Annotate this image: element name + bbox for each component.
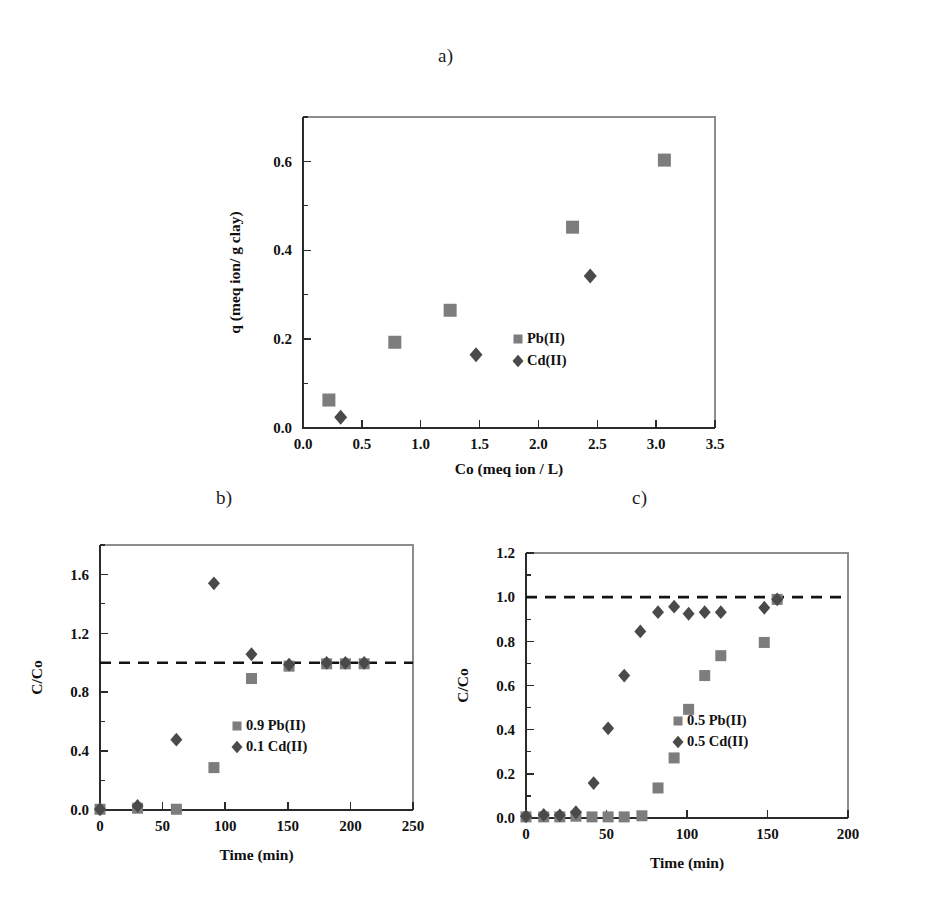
data-point (245, 647, 257, 661)
scatter-plot-c: 0.00.20.40.60.81.01.2050100150200Time (m… (448, 525, 878, 890)
x-tick-label: 250 (402, 818, 425, 834)
data-point (715, 605, 727, 619)
x-tick-label: 0 (96, 818, 104, 834)
data-point (699, 605, 711, 619)
x-tick-label: 2.0 (529, 436, 548, 452)
data-point (619, 811, 630, 822)
data-point (171, 804, 182, 815)
data-point (322, 394, 335, 407)
data-point (699, 670, 710, 681)
y-tick-label: 0.2 (273, 331, 292, 347)
x-axis-title: Time (min) (650, 854, 724, 872)
data-point (634, 624, 646, 638)
scatter-plot-b: 0.00.40.81.21.6050100150200250Time (min)… (22, 525, 442, 890)
data-point (668, 600, 680, 614)
legend-marker-diamond (232, 741, 243, 754)
legend-label: Cd(II) (527, 352, 567, 369)
legend-label: 0.5 Pb(II) (687, 712, 747, 729)
x-tick-label: 0 (522, 826, 530, 842)
data-point (588, 776, 600, 790)
plot-frame (526, 553, 848, 818)
x-tick-label: 50 (155, 818, 170, 834)
y-tick-label: 1.2 (496, 545, 515, 561)
y-tick-label: 1.0 (496, 589, 515, 605)
y-tick-label: 1.6 (70, 567, 89, 583)
data-point (759, 637, 770, 648)
legend-marker-diamond (513, 355, 524, 368)
legend: 0.5 Pb(II)0.5 Cd(II) (673, 712, 749, 750)
y-tick-label: 0.4 (70, 743, 89, 759)
legend-marker-square (514, 335, 523, 344)
panel-label-c: c) (632, 487, 647, 509)
y-tick-label: 0.6 (273, 154, 292, 170)
scatter-plot-a: 0.00.20.40.60.00.51.01.52.02.53.03.5Co (… (218, 100, 738, 475)
x-tick-label: 50 (599, 826, 614, 842)
data-point (653, 782, 664, 793)
panel-label-b: b) (216, 487, 232, 509)
plot-axes (526, 553, 848, 818)
legend-label: 0.9 Pb(II) (246, 717, 306, 734)
series-2-points (520, 592, 783, 823)
series-2-points (94, 576, 370, 816)
plot-b-canvas: 0.00.40.81.21.6050100150200250Time (min)… (22, 525, 442, 890)
x-tick-label: 2.5 (588, 436, 607, 452)
x-tick-label: 200 (339, 818, 362, 834)
y-tick-label: 1.2 (70, 626, 89, 642)
series-1-points (322, 154, 670, 407)
data-point (636, 810, 647, 821)
data-point (334, 410, 347, 425)
x-axis-title: Co (meq ion / L) (455, 460, 564, 478)
legend-marker-diamond (673, 736, 684, 749)
x-tick-label: 100 (676, 826, 699, 842)
data-point (618, 669, 630, 683)
legend: Pb(II)Cd(II) (513, 330, 567, 369)
data-point (652, 605, 664, 619)
y-tick-label: 0.6 (496, 678, 515, 694)
plot-a-canvas: 0.00.20.40.60.00.51.01.52.02.53.03.5Co (… (218, 100, 738, 475)
x-tick-label: 200 (837, 826, 860, 842)
data-point (602, 721, 614, 735)
y-tick-label: 0.0 (496, 810, 515, 826)
y-tick-label: 0.8 (70, 684, 89, 700)
data-point (715, 650, 726, 661)
x-tick-label: 150 (277, 818, 300, 834)
y-tick-label: 0.0 (70, 802, 89, 818)
data-point (208, 762, 219, 773)
data-point (669, 752, 680, 763)
legend-marker-square (674, 717, 683, 726)
legend-marker-square (233, 722, 242, 731)
plot-c-canvas: 0.00.20.40.60.81.01.2050100150200Time (m… (448, 525, 878, 890)
x-axis-title: Time (min) (219, 846, 293, 864)
legend-label: 0.1 Cd(II) (246, 738, 307, 755)
data-point (658, 154, 671, 167)
series-2-points (334, 269, 597, 425)
data-point (388, 336, 401, 349)
legend-label: 0.5 Cd(II) (687, 733, 748, 750)
y-axis-title: C/Co (454, 668, 471, 703)
x-tick-label: 1.0 (411, 436, 430, 452)
y-tick-label: 0.0 (273, 420, 292, 436)
data-point (683, 607, 695, 621)
data-point (208, 576, 220, 590)
x-tick-label: 100 (214, 818, 237, 834)
y-tick-label: 0.4 (273, 242, 292, 258)
series-1-points (95, 658, 370, 814)
legend: 0.9 Pb(II)0.1 Cd(II) (232, 717, 308, 755)
series-1-points (521, 594, 783, 823)
x-tick-label: 0.5 (352, 436, 371, 452)
y-axis-title: C/Co (28, 660, 45, 695)
data-point (584, 269, 597, 284)
x-tick-label: 1.5 (470, 436, 489, 452)
x-tick-label: 3.5 (706, 436, 725, 452)
data-point (758, 601, 770, 615)
y-tick-label: 0.4 (496, 722, 515, 738)
data-point (470, 347, 483, 362)
data-point (444, 304, 457, 317)
data-point (246, 673, 257, 684)
data-point (603, 811, 614, 822)
x-tick-label: 3.0 (647, 436, 666, 452)
y-tick-label: 0.8 (496, 634, 515, 650)
x-tick-label: 0.0 (294, 436, 313, 452)
data-point (170, 733, 182, 747)
panel-label-a: a) (438, 45, 453, 67)
